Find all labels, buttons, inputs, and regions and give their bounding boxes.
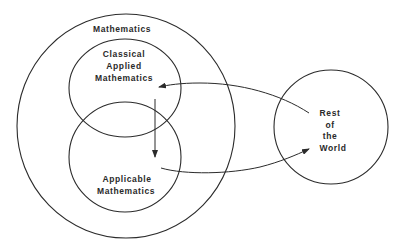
mathematics-label: Mathematics (93, 24, 151, 34)
classical-label-line3: Mathematics (95, 73, 153, 83)
classical-label-line2: Applied (106, 61, 141, 71)
applicable-label-line1: Applicable (103, 174, 152, 184)
arrow-applicable-to-world (161, 149, 309, 173)
classical-label-line1: Classical (103, 49, 145, 59)
applicable-label-line2: Mathematics (97, 186, 155, 196)
diagram-canvas: Mathematics Classical Applied Mathematic… (0, 0, 404, 249)
rest-label-line3: the (323, 131, 338, 141)
rest-label-line1: Rest (320, 108, 341, 118)
rest-label-line2: of (325, 120, 334, 130)
mathematics-circle (17, 14, 235, 238)
rest-label-line4: World (320, 143, 347, 153)
